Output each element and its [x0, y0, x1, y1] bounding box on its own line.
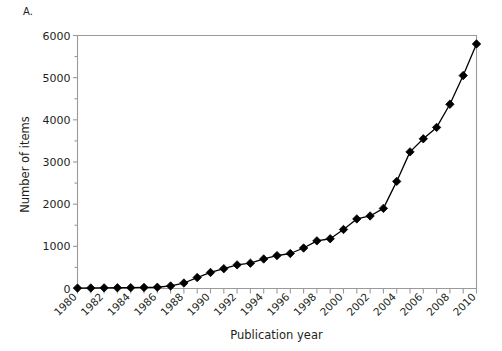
data-point-marker: [393, 177, 401, 185]
data-point-marker: [153, 283, 161, 291]
x-tick-label: 2000: [318, 290, 345, 317]
x-tick-label: 1998: [291, 290, 318, 317]
data-point-marker: [233, 261, 241, 269]
figure-panel: A. Number of items Publication year 0100…: [0, 0, 502, 351]
x-tick-label: 1982: [78, 290, 105, 317]
data-point-marker: [260, 255, 268, 263]
y-tick-label: 1000: [43, 240, 71, 253]
plot-frame: [78, 36, 477, 289]
x-tick-label: 1980: [52, 290, 79, 317]
data-point-marker: [193, 273, 201, 281]
data-series: [73, 40, 480, 293]
x-tick-label: 1990: [185, 290, 212, 317]
x-tick-label: 1986: [131, 290, 159, 318]
data-point-marker: [299, 244, 307, 252]
data-point-marker: [286, 249, 294, 257]
data-point-marker: [379, 204, 387, 212]
x-tick-label: 2010: [451, 290, 478, 317]
data-point-marker: [87, 284, 95, 292]
data-point-marker: [459, 71, 467, 79]
data-point-marker: [140, 283, 148, 291]
data-point-marker: [220, 264, 228, 272]
x-tick-label: 2002: [344, 290, 371, 317]
data-point-marker: [113, 284, 121, 292]
y-tick-label: 5000: [43, 72, 71, 85]
y-tick-label: 2000: [43, 198, 71, 211]
data-point-marker: [326, 235, 334, 243]
data-point-marker: [246, 259, 254, 267]
data-point-marker: [73, 284, 81, 292]
data-point-marker: [273, 251, 281, 259]
x-tick-label: 2006: [397, 290, 425, 318]
data-point-marker: [366, 212, 374, 220]
data-point-marker: [313, 237, 321, 245]
x-axis-ticks: 1980198219841986198819901992199419961998…: [52, 289, 478, 318]
y-tick-label: 3000: [43, 156, 71, 169]
x-tick-label: 1992: [211, 290, 238, 317]
x-tick-label: 2004: [371, 290, 399, 318]
data-point-marker: [127, 283, 135, 291]
line-chart: 0100020003000400050006000 19801982198419…: [0, 0, 502, 351]
x-tick-label: 1984: [105, 290, 133, 318]
x-tick-label: 1996: [264, 290, 292, 318]
data-point-marker: [180, 279, 188, 287]
data-point-marker: [472, 40, 480, 48]
data-point-marker: [206, 268, 214, 276]
x-tick-label: 2008: [424, 290, 451, 317]
y-axis-ticks: 0100020003000400050006000: [43, 30, 78, 296]
x-tick-label: 1988: [158, 290, 185, 317]
data-point-marker: [446, 100, 454, 108]
x-tick-label: 1994: [238, 290, 266, 318]
y-tick-label: 6000: [43, 30, 71, 43]
data-point-marker: [100, 284, 108, 292]
y-tick-label: 4000: [43, 114, 71, 127]
